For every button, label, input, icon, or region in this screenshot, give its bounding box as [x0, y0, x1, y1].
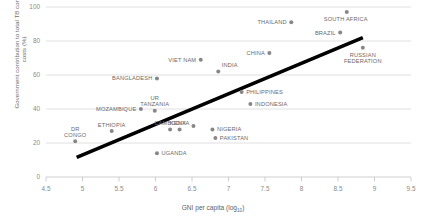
- svg-text:7: 7: [227, 185, 231, 192]
- svg-text:THAILAND: THAILAND: [257, 19, 286, 25]
- svg-text:5: 5: [81, 185, 85, 192]
- svg-text:URTANZANIA: URTANZANIA: [140, 95, 169, 107]
- svg-text:BRAZIL: BRAZIL: [315, 30, 336, 36]
- svg-text:DRCONGO: DRCONGO: [64, 126, 87, 138]
- svg-text:UGANDA: UGANDA: [161, 150, 186, 156]
- svg-text:60: 60: [33, 71, 41, 78]
- svg-text:6.5: 6.5: [188, 185, 197, 192]
- svg-text:8: 8: [300, 185, 304, 192]
- svg-text:100: 100: [29, 3, 40, 10]
- svg-text:5.5: 5.5: [115, 185, 124, 192]
- svg-text:4.5: 4.5: [42, 185, 51, 192]
- svg-text:SOUTH AFRICA: SOUTH AFRICA: [324, 16, 368, 22]
- svg-text:PHILIPPINES: PHILIPPINES: [246, 89, 283, 95]
- svg-text:NIGERIA: NIGERIA: [217, 126, 241, 132]
- svg-text:INDONESIA: INDONESIA: [255, 101, 288, 107]
- svg-text:0: 0: [36, 173, 40, 180]
- svg-text:INDIA: INDIA: [222, 62, 238, 68]
- svg-text:RUSSIANFEDERATION: RUSSIANFEDERATION: [344, 52, 382, 64]
- svg-text:KENYA: KENYA: [170, 120, 190, 126]
- svg-text:9: 9: [373, 185, 377, 192]
- svg-text:8.5: 8.5: [334, 185, 343, 192]
- svg-text:9.5: 9.5: [407, 185, 416, 192]
- data-point-labels: DRCONGOETHIOPIAMOZAMBIQUEURTANZANIAUGAND…: [64, 16, 382, 157]
- svg-text:80: 80: [33, 37, 41, 44]
- x-axis: [46, 177, 411, 182]
- svg-text:VIET NAM: VIET NAM: [168, 57, 196, 63]
- svg-text:7.5: 7.5: [261, 185, 270, 192]
- plot-area: 020406080100 4.555.566.577.588.599.5 DRC…: [0, 0, 426, 221]
- svg-text:ETHIOPIA: ETHIOPIA: [98, 122, 126, 128]
- scatter-chart: Government contribution to total TB cont…: [0, 0, 426, 221]
- svg-text:40: 40: [33, 105, 41, 112]
- svg-text:PAKISTAN: PAKISTAN: [220, 135, 248, 141]
- svg-text:MOZAMBIQUE: MOZAMBIQUE: [96, 106, 136, 112]
- y-tick-labels: 020406080100: [29, 3, 40, 180]
- x-tick-labels: 4.555.566.577.588.599.5: [42, 185, 416, 192]
- svg-text:BANGLADESH: BANGLADESH: [112, 75, 152, 81]
- svg-text:6: 6: [154, 185, 158, 192]
- svg-text:20: 20: [33, 139, 41, 146]
- svg-text:CHINA: CHINA: [246, 50, 265, 56]
